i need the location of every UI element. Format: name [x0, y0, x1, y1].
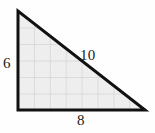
- geometry-figure: 6 10 8: [0, 0, 155, 133]
- label-vertical-leg: 6: [3, 56, 11, 71]
- label-horizontal-leg: 8: [77, 113, 85, 128]
- label-hypotenuse: 10: [80, 48, 95, 63]
